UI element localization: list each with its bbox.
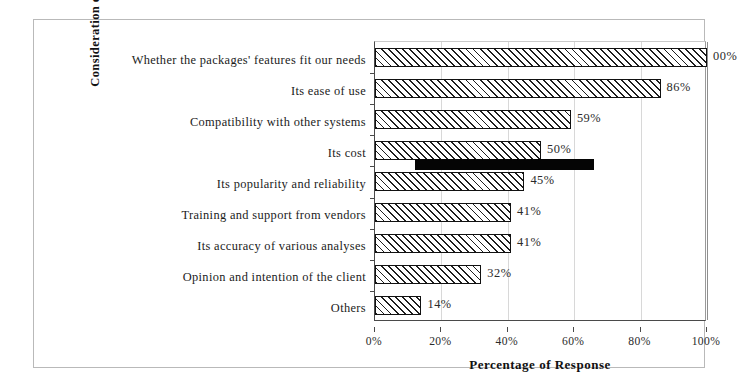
- bar-row: 86%: [375, 75, 707, 103]
- x-axis-tick: [640, 327, 641, 332]
- y-axis-tick: [370, 291, 375, 292]
- redaction-artifact: [415, 159, 594, 170]
- bar-row: 45%: [375, 168, 707, 196]
- bar-value-label: 45%: [530, 171, 554, 190]
- bar[interactable]: [375, 203, 511, 222]
- x-axis-tick: [573, 327, 574, 332]
- bar-value-label: 50%: [547, 140, 571, 159]
- bar[interactable]: [375, 141, 541, 160]
- bar-row: 00%: [375, 44, 707, 72]
- bar-row: 41%: [375, 230, 707, 258]
- bar-value-label: 00%: [713, 47, 737, 66]
- x-axis-tick-label: 60%: [562, 335, 584, 348]
- bar[interactable]: [375, 234, 511, 253]
- bar-value-label: 59%: [577, 109, 601, 128]
- plot-area: 00%86%59%50%45%41%41%32%14%: [374, 41, 706, 321]
- x-axis-tick-label: 100%: [692, 335, 721, 348]
- bar-value-label: 14%: [427, 295, 451, 314]
- x-axis-title: Percentage of Response: [374, 357, 706, 373]
- bar-value-label: 32%: [487, 264, 511, 283]
- bar[interactable]: [375, 48, 707, 67]
- category-label: Its accuracy of various analyses: [197, 237, 366, 255]
- y-axis-tick: [370, 198, 375, 199]
- y-axis-tick: [370, 260, 375, 261]
- bar[interactable]: [375, 265, 481, 284]
- bar-row: 59%: [375, 106, 707, 134]
- category-label: Opinion and intention of the client: [183, 268, 366, 286]
- x-axis-tick-label: 0%: [366, 335, 382, 348]
- category-axis: Whether the packages' features fit our n…: [74, 44, 370, 321]
- x-axis-tick-label: 40%: [496, 335, 518, 348]
- bar-value-label: 86%: [667, 78, 691, 97]
- category-label: Its ease of use: [291, 82, 366, 100]
- bar-value-label: 41%: [517, 233, 541, 252]
- y-axis-tick: [370, 135, 375, 136]
- bar-row: 41%: [375, 199, 707, 227]
- gridline: [707, 42, 708, 320]
- category-label: Whether the packages' features fit our n…: [132, 51, 366, 69]
- category-label: Compatibility with other systems: [190, 113, 366, 131]
- bar-value-label: 41%: [517, 202, 541, 221]
- bar[interactable]: [375, 296, 421, 315]
- category-label: Training and support from vendors: [181, 206, 366, 224]
- bar[interactable]: [375, 110, 571, 129]
- figure-frame: Consideration on Selection Whether the p…: [33, 19, 705, 368]
- x-axis-tick-labels: 0%20%40%60%80%100%: [374, 327, 706, 343]
- bar-row: 14%: [375, 292, 707, 320]
- y-axis-tick: [370, 104, 375, 105]
- bar-row: 32%: [375, 261, 707, 289]
- category-label: Its popularity and reliability: [217, 175, 366, 193]
- x-axis-tick: [374, 327, 375, 332]
- category-label: Others: [331, 299, 366, 317]
- x-axis-tick-label: 20%: [429, 335, 451, 348]
- y-axis-tick: [370, 166, 375, 167]
- bar[interactable]: [375, 172, 524, 191]
- y-axis-tick: [370, 229, 375, 230]
- y-axis-tick: [370, 73, 375, 74]
- x-axis-tick: [507, 327, 508, 332]
- bar[interactable]: [375, 79, 661, 98]
- x-axis-tick: [440, 327, 441, 332]
- category-label: Its cost: [328, 144, 366, 162]
- x-axis-tick: [706, 327, 707, 332]
- x-axis-tick-label: 80%: [628, 335, 650, 348]
